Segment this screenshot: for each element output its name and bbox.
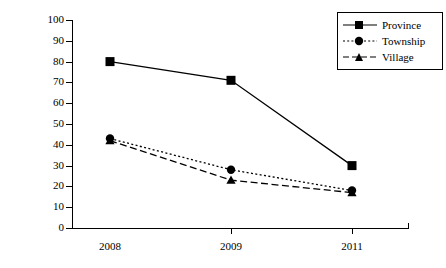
legend-swatch-square-solid-icon xyxy=(342,18,378,32)
legend-swatch-circle-dotted-icon xyxy=(342,34,378,48)
y-tick-label: 30 xyxy=(28,160,64,171)
data-point-province xyxy=(348,161,357,170)
legend-item-township: Township xyxy=(342,33,436,49)
y-tick-label: 0 xyxy=(28,222,64,233)
legend-item-village: Village xyxy=(342,49,436,65)
x-tick-label: 2008 xyxy=(70,241,150,252)
legend-label-village: Village xyxy=(382,52,414,63)
y-tick-label: 50 xyxy=(28,118,64,129)
data-point-township xyxy=(227,166,235,174)
x-tick-label: 2009 xyxy=(191,241,271,252)
data-point-province xyxy=(106,57,115,66)
x-axis-line xyxy=(72,228,409,229)
legend-item-province: Province xyxy=(342,17,436,33)
y-tick-label: 40 xyxy=(28,139,64,150)
legend-label-township: Township xyxy=(382,36,425,47)
y-tick-label: 90 xyxy=(28,35,64,46)
y-tick-label: 100 xyxy=(28,14,64,25)
y-tick xyxy=(66,228,72,229)
data-point-province xyxy=(227,76,236,85)
data-point-village xyxy=(226,176,235,184)
y-tick-label: 10 xyxy=(28,201,64,212)
x-axis-end-cap xyxy=(408,223,409,229)
legend-swatch-triangle-dashed-icon xyxy=(342,50,378,64)
y-tick-label: 20 xyxy=(28,180,64,191)
y-tick-label: 60 xyxy=(28,97,64,108)
y-tick-label: 70 xyxy=(28,76,64,87)
legend-label-province: Province xyxy=(382,20,421,31)
x-tick xyxy=(231,228,232,234)
x-tick-label: 2011 xyxy=(312,241,392,252)
y-tick-label: 80 xyxy=(28,56,64,67)
legend: Province Township Village xyxy=(337,12,443,70)
x-tick xyxy=(352,228,353,234)
chart-container: Percent 1009080706050403020100 200820092… xyxy=(0,0,446,268)
